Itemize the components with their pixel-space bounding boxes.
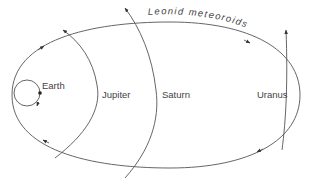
stream-title-text: Leonid meteoroids (147, 5, 250, 30)
jupiter-label: Jupiter (102, 89, 131, 100)
earth-orbit-arrow (37, 103, 38, 106)
orbit-arrow-lower-right (257, 149, 263, 152)
earth-orbit (14, 80, 40, 106)
jupiter-orbit (55, 30, 98, 158)
stream-title: Leonid meteoroids (147, 5, 250, 30)
earth-dot (38, 91, 42, 95)
uranus-label: Uranus (257, 89, 288, 100)
orbit-arrow-upper-left (38, 46, 44, 50)
orbit-arrow-upper-right (244, 40, 250, 43)
saturn-label: Saturn (162, 89, 190, 100)
earth-label: Earth (42, 80, 65, 91)
leonid-orbit-diagram: Earth Jupiter Saturn Uranus Leonid meteo… (0, 0, 312, 184)
orbit-arrow-lower-left (43, 140, 49, 143)
